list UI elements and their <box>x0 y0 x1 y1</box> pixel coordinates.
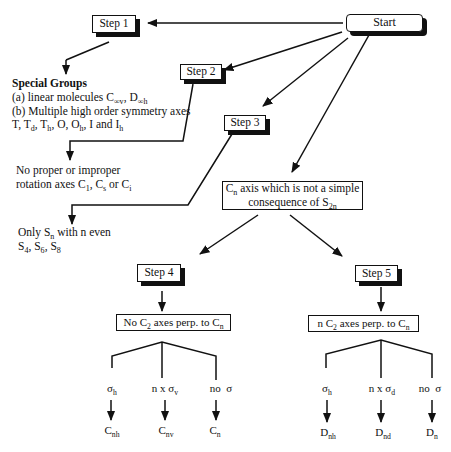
step4-cond-sigma-h: σh <box>107 382 117 394</box>
arrow-cn-step4 <box>200 215 258 254</box>
step5-cond-sigma-h: σh <box>322 382 332 394</box>
arrow-cn-step5 <box>290 215 342 256</box>
result-dnd: Dnd <box>375 426 391 438</box>
only-sn-text: Only Sn with n even S4, S6, S8 <box>18 226 111 254</box>
special-groups-line-b: (b) Multiple high order symmetry axes <box>12 105 191 119</box>
n-c2-box: n C2 axes perp. to Cn <box>308 315 419 332</box>
step5-label: Step 5 <box>362 267 391 280</box>
special-groups-text: Special Groups (a) linear molecules C∞v,… <box>12 77 191 132</box>
result-dnh: Dnh <box>320 426 336 438</box>
step4-cond-no-sigma: no σ <box>210 382 232 394</box>
special-groups-line-c: T, Td, Th, O, Oh, I and Ih <box>12 118 191 132</box>
result-cn: Cn <box>209 424 220 436</box>
step1-node: Step 1 <box>92 15 136 33</box>
step4-cond-n-sigma-v: n x σv <box>152 382 178 394</box>
step2-label: Step 2 <box>186 65 215 78</box>
arrow-start-cn <box>292 35 369 172</box>
step4-node: Step 4 <box>137 264 181 282</box>
result-dn: Dn <box>426 426 438 438</box>
step1-label: Step 1 <box>99 17 128 30</box>
no-rotation-text: No proper or improper rotation axes C1, … <box>16 164 131 192</box>
step5-node: Step 5 <box>355 265 398 282</box>
step3-label: Step 3 <box>230 116 259 129</box>
arrow-start-step2 <box>224 32 342 70</box>
no-c2-box: No C2 axes perp. to Cn <box>116 314 231 331</box>
start-label: Start <box>373 16 396 30</box>
special-groups-title: Special Groups <box>12 77 191 91</box>
result-cnh: Cnh <box>104 424 119 436</box>
step3-node: Step 3 <box>224 115 266 131</box>
special-groups-line-a: (a) linear molecules C∞v, D∞h <box>12 91 191 105</box>
start-node: Start <box>346 14 423 32</box>
step5-cond-n-sigma-d: n x σd <box>369 382 395 394</box>
arrow-step1-special <box>66 42 109 60</box>
result-cnv: Cnv <box>158 424 173 436</box>
cn-axis-box: Cn axis which is not a simple consequenc… <box>222 181 363 210</box>
step4-label: Step 4 <box>144 266 173 279</box>
step5-cond-no-sigma: no σ <box>419 382 441 394</box>
